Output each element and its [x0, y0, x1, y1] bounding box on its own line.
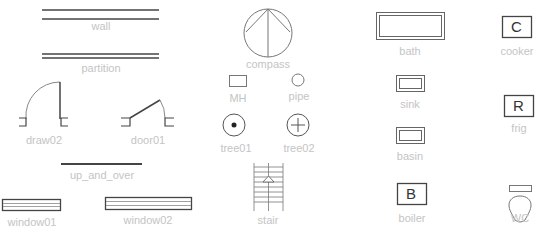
- wall-label: wall: [92, 20, 111, 32]
- bath-label: bath: [399, 45, 420, 57]
- partition-label: partition: [81, 62, 120, 74]
- compass-label: compass: [246, 58, 290, 70]
- cooker-label: cooker: [500, 45, 533, 57]
- window01-label: window01: [8, 216, 57, 228]
- door01-label: door01: [131, 134, 165, 146]
- draw02-door-symbol[interactable]: [19, 82, 68, 126]
- pipe-label: pipe: [289, 90, 310, 102]
- wc-label: WC: [511, 212, 529, 224]
- pipe-symbol[interactable]: [292, 74, 304, 86]
- compass-symbol[interactable]: [244, 9, 292, 57]
- wall-symbol[interactable]: [42, 10, 159, 19]
- tree02-label: tree02: [283, 142, 314, 154]
- manhole-symbol[interactable]: [230, 76, 247, 87]
- tree01-symbol[interactable]: [223, 114, 245, 136]
- boiler-label: boiler: [399, 212, 426, 224]
- door01-symbol[interactable]: [121, 100, 174, 126]
- sink-symbol[interactable]: [397, 76, 425, 92]
- draw02-label: draw02: [26, 134, 62, 146]
- fridge-label: frig: [511, 122, 526, 134]
- sink-label: sink: [400, 98, 420, 110]
- manhole-label: MH: [229, 92, 246, 104]
- tree01-label: tree01: [220, 142, 251, 154]
- boiler-glyph: B: [406, 185, 416, 202]
- fridge-glyph: R: [513, 97, 524, 114]
- stair-symbol[interactable]: [254, 163, 283, 211]
- window01-symbol[interactable]: [3, 200, 61, 211]
- window02-label: window02: [124, 214, 173, 226]
- basin-label: basin: [397, 150, 423, 162]
- basin-symbol[interactable]: [397, 128, 425, 144]
- window02-symbol[interactable]: [106, 198, 192, 210]
- stair-label: stair: [258, 214, 279, 226]
- bath-symbol[interactable]: [377, 13, 445, 40]
- up-and-over-label: up_and_over: [70, 169, 134, 181]
- partition-symbol[interactable]: [42, 54, 159, 58]
- cooker-glyph: C: [511, 18, 522, 35]
- tree02-symbol[interactable]: [287, 114, 309, 136]
